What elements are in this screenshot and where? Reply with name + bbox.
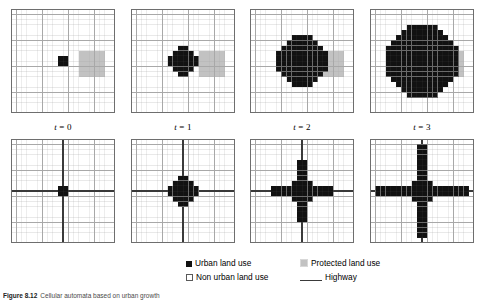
panel-label-value: = 2 [296,122,311,132]
panel-label-t1: t = 1 [131,122,235,132]
highway-line-icon [300,280,322,281]
caption-bleed-text [230,286,480,291]
grid-panel-highway-scenario-t3 [370,139,474,243]
figure-cellular-automata: Urban land use Protected land use Non ur… [0,0,483,302]
legend-item-urban: Urban land use [186,258,251,268]
grid-canvas-highway-scenario-t2 [250,139,354,243]
panel-label-value: = 1 [177,122,192,132]
grid-canvas-highway-scenario-t1 [131,139,235,243]
grid-panel-protected-zone-scenario-t0 [11,9,115,113]
legend: Urban land use Protected land use Non ur… [0,258,483,288]
grid-canvas-protected-zone-scenario-t2 [250,9,354,113]
grid-canvas-protected-zone-scenario-t1 [131,9,235,113]
legend-item-protected: Protected land use [300,258,380,268]
legend-item-non-urban: Non urban land use [186,272,268,282]
legend-label-urban: Urban land use [195,258,251,268]
legend-label-highway: Highway [325,272,357,282]
grid-panel-protected-zone-scenario-t1 [131,9,235,113]
caption-text: Cellular automata based on urban growth [40,292,159,299]
legend-label-non-urban: Non urban land use [196,272,268,282]
panel-label-value: = 3 [416,122,431,132]
grid-panel-highway-scenario-t1 [131,139,235,243]
grid-canvas-protected-zone-scenario-t0 [11,9,115,113]
grid-canvas-highway-scenario-t3 [370,139,474,243]
figure-caption: Figure 8.12Cellular automata based on ur… [3,292,473,302]
protected-swatch-icon [300,259,308,267]
legend-item-highway: Highway [300,272,357,282]
grid-canvas-highway-scenario-t0 [11,139,115,243]
legend-label-protected: Protected land use [311,258,380,268]
panel-label-t0: t = 0 [11,122,115,132]
panel-label-t2: t = 2 [250,122,354,132]
caption-label: Figure 8.12 [3,292,37,299]
grid-panel-highway-scenario-t2 [250,139,354,243]
grid-panel-protected-zone-scenario-t3 [370,9,474,113]
grid-canvas-protected-zone-scenario-t3 [370,9,474,113]
grid-panel-protected-zone-scenario-t2 [250,9,354,113]
urban-swatch-icon [186,261,192,267]
nonurban-swatch-icon [186,274,193,281]
panel-label-t3: t = 3 [370,122,474,132]
grid-panel-highway-scenario-t0 [11,139,115,243]
panel-label-value: = 0 [57,122,72,132]
